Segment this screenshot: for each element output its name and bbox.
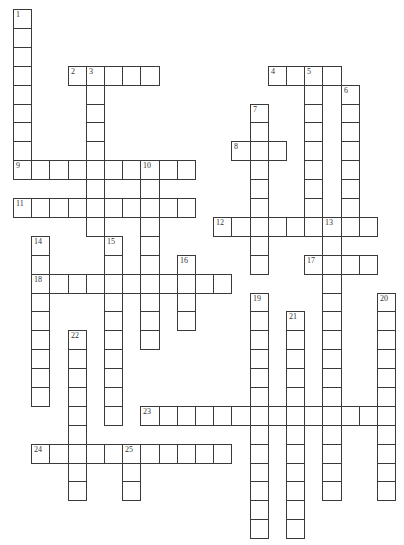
crossword-cell[interactable]: 16 (177, 255, 196, 275)
crossword-cell[interactable] (322, 349, 342, 369)
crossword-cell[interactable] (304, 141, 323, 161)
crossword-cell[interactable] (86, 217, 105, 237)
crossword-cell[interactable] (31, 255, 50, 275)
crossword-cell[interactable] (250, 519, 269, 539)
crossword-cell[interactable]: 6 (341, 85, 360, 105)
crossword-cell[interactable] (359, 255, 378, 275)
crossword-cell[interactable] (31, 160, 50, 180)
crossword-cell[interactable] (250, 330, 269, 350)
crossword-cell[interactable] (195, 444, 214, 464)
crossword-cell[interactable] (304, 198, 323, 218)
crossword-cell[interactable] (31, 311, 50, 331)
crossword-cell[interactable] (140, 236, 160, 256)
crossword-cell[interactable] (13, 104, 32, 123)
crossword-cell[interactable] (140, 255, 160, 275)
crossword-cell[interactable] (13, 47, 32, 67)
crossword-cell[interactable] (104, 255, 123, 275)
crossword-cell[interactable] (86, 198, 105, 218)
crossword-cell[interactable] (286, 368, 305, 388)
crossword-cell[interactable] (341, 198, 360, 218)
crossword-cell[interactable] (122, 66, 141, 86)
crossword-cell[interactable] (122, 463, 141, 482)
crossword-cell[interactable] (140, 311, 160, 331)
crossword-cell[interactable] (322, 425, 342, 445)
crossword-cell[interactable] (250, 425, 269, 445)
crossword-cell[interactable] (68, 463, 87, 482)
crossword-cell[interactable] (322, 236, 342, 256)
crossword-cell[interactable] (377, 425, 396, 445)
crossword-cell[interactable] (322, 330, 342, 350)
crossword-cell[interactable]: 11 (13, 198, 32, 218)
crossword-cell[interactable] (322, 368, 342, 388)
crossword-cell[interactable]: 4 (268, 66, 287, 86)
crossword-cell[interactable] (341, 160, 360, 180)
crossword-cell[interactable] (13, 122, 32, 142)
crossword-cell[interactable] (286, 387, 305, 407)
crossword-cell[interactable] (31, 293, 50, 312)
crossword-cell[interactable] (140, 293, 160, 312)
crossword-cell[interactable] (231, 406, 251, 426)
crossword-cell[interactable] (341, 255, 360, 275)
crossword-cell[interactable] (195, 274, 214, 294)
crossword-cell[interactable] (250, 463, 269, 482)
crossword-cell[interactable] (68, 406, 87, 426)
crossword-cell[interactable] (304, 122, 323, 142)
crossword-cell[interactable] (104, 293, 123, 312)
crossword-cell[interactable] (104, 368, 123, 388)
crossword-cell[interactable] (49, 444, 69, 464)
crossword-cell[interactable]: 25 (122, 444, 141, 464)
crossword-cell[interactable]: 18 (31, 274, 50, 294)
crossword-cell[interactable]: 14 (31, 236, 50, 256)
crossword-cell[interactable] (13, 66, 32, 86)
crossword-cell[interactable] (304, 179, 323, 199)
crossword-cell[interactable] (231, 217, 251, 237)
crossword-cell[interactable] (159, 198, 178, 218)
crossword-cell[interactable] (177, 274, 196, 294)
crossword-cell[interactable] (86, 444, 105, 464)
crossword-cell[interactable] (122, 481, 141, 501)
crossword-cell[interactable] (250, 406, 269, 426)
crossword-cell[interactable] (286, 330, 305, 350)
crossword-cell[interactable] (304, 104, 323, 123)
crossword-cell[interactable] (68, 481, 87, 501)
crossword-cell[interactable] (286, 519, 305, 539)
crossword-cell[interactable] (159, 406, 178, 426)
crossword-cell[interactable] (304, 160, 323, 180)
crossword-cell[interactable] (159, 160, 178, 180)
crossword-cell[interactable] (250, 160, 269, 180)
crossword-cell[interactable] (140, 217, 160, 237)
crossword-cell[interactable] (377, 406, 396, 426)
crossword-cell[interactable] (304, 406, 323, 426)
crossword-cell[interactable] (122, 274, 141, 294)
crossword-cell[interactable]: 22 (68, 330, 87, 350)
crossword-cell[interactable] (286, 217, 305, 237)
crossword-cell[interactable] (341, 104, 360, 123)
crossword-cell[interactable]: 2 (68, 66, 87, 86)
crossword-cell[interactable] (13, 85, 32, 105)
crossword-cell[interactable] (86, 104, 105, 123)
crossword-cell[interactable] (250, 500, 269, 520)
crossword-cell[interactable]: 15 (104, 236, 123, 256)
crossword-cell[interactable] (322, 274, 342, 294)
crossword-cell[interactable] (177, 444, 196, 464)
crossword-cell[interactable] (341, 406, 360, 426)
crossword-cell[interactable] (68, 368, 87, 388)
crossword-cell[interactable] (286, 444, 305, 464)
crossword-cell[interactable] (122, 160, 141, 180)
crossword-cell[interactable]: 1 (13, 9, 32, 29)
crossword-cell[interactable] (213, 274, 232, 294)
crossword-cell[interactable] (250, 122, 269, 142)
crossword-cell[interactable] (250, 179, 269, 199)
crossword-cell[interactable] (322, 463, 342, 482)
crossword-cell[interactable] (13, 141, 32, 161)
crossword-cell[interactable] (250, 387, 269, 407)
crossword-cell[interactable] (286, 481, 305, 501)
crossword-cell[interactable] (213, 406, 232, 426)
crossword-cell[interactable] (286, 500, 305, 520)
crossword-cell[interactable] (177, 198, 196, 218)
crossword-cell[interactable] (104, 330, 123, 350)
crossword-cell[interactable]: 3 (86, 66, 105, 86)
crossword-cell[interactable] (359, 406, 378, 426)
crossword-cell[interactable] (86, 122, 105, 142)
crossword-cell[interactable] (104, 274, 123, 294)
